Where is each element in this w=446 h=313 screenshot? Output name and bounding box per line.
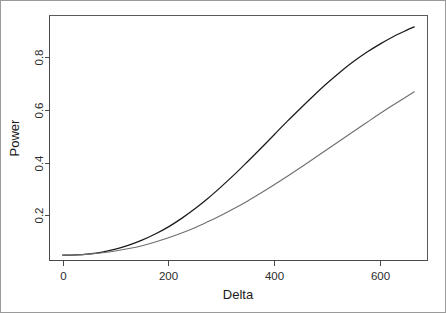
y-tick-label: 0.6 xyxy=(33,103,45,119)
x-tick-label: 400 xyxy=(265,270,284,282)
y-tick-label: 0.2 xyxy=(33,208,45,224)
chart-background xyxy=(1,1,446,313)
y-tick-label: 0.8 xyxy=(33,50,45,66)
y-tick-label: 0.4 xyxy=(33,155,45,172)
chart-page: 0.20.40.60.8 0200400600 Delta Power xyxy=(0,0,446,313)
x-tick-label: 0 xyxy=(60,270,66,282)
power-vs-delta-chart: 0.20.40.60.8 0200400600 Delta Power xyxy=(1,1,446,313)
x-tick-label: 200 xyxy=(159,270,178,282)
x-tick-label: 600 xyxy=(371,270,390,282)
x-axis-title: Delta xyxy=(223,287,254,302)
y-axis-title: Power xyxy=(7,119,22,157)
